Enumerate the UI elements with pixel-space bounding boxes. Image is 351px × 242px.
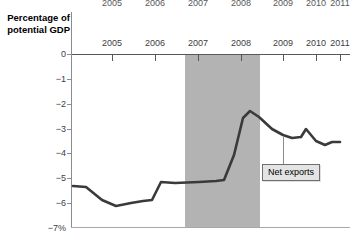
- series-layer: [0, 0, 351, 242]
- chart-figure: 2005 2006 2007 2008 2009 2010 2011 Perce…: [0, 0, 351, 242]
- net-exports-callout-label: Net exports: [268, 167, 314, 177]
- net-exports-line: [73, 111, 340, 206]
- callout-leader-line: [283, 136, 284, 164]
- net-exports-callout[interactable]: Net exports: [262, 164, 320, 181]
